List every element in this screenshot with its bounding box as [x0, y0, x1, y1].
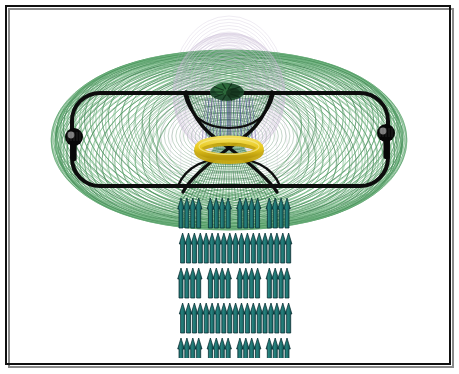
scientific-illustration: [0, 0, 459, 374]
central-dark-cluster: [210, 83, 244, 101]
figure-canvas: [0, 0, 459, 374]
